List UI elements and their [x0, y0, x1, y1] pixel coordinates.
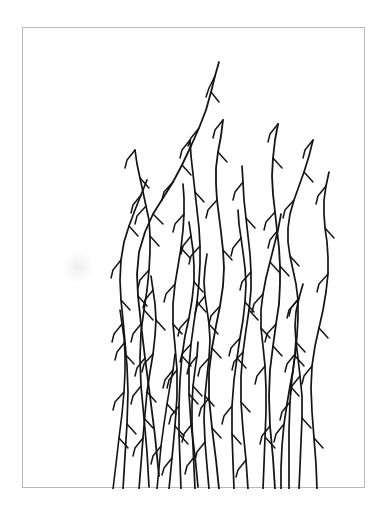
twig-bud	[131, 324, 141, 342]
twig-bud	[127, 424, 136, 434]
twig-bud	[112, 324, 122, 342]
twig-bud	[156, 320, 165, 330]
twig-bud	[135, 206, 146, 224]
twig-16	[302, 172, 334, 489]
illustration-frame	[22, 27, 365, 488]
twig-bud	[231, 238, 241, 256]
twig-3	[162, 184, 190, 489]
stem-layer	[111, 62, 334, 489]
twig-bud	[129, 226, 138, 236]
twig-15	[112, 310, 134, 489]
twig-bud	[283, 200, 294, 218]
twig-cluster-drawing	[23, 28, 366, 489]
twig-2	[125, 150, 159, 487]
figure-root	[0, 0, 389, 507]
twig-stem	[157, 354, 175, 489]
twig-bud	[264, 212, 275, 230]
twig-12	[252, 214, 281, 489]
twig-bud	[211, 92, 219, 102]
twig-bud	[131, 195, 141, 213]
twig-bud	[206, 200, 217, 218]
twig-bud	[153, 214, 163, 224]
twig-bud	[125, 150, 135, 168]
twig-bud	[167, 404, 176, 414]
twig-stem	[269, 124, 280, 489]
twig-stem	[179, 222, 194, 489]
twig-bud	[232, 434, 241, 444]
twig-bud	[115, 342, 125, 360]
twig-bud	[218, 152, 227, 162]
twig-bud	[222, 406, 232, 424]
twig-bud	[147, 392, 156, 402]
twig-bud	[302, 418, 311, 428]
twig-stem	[311, 172, 329, 489]
twig-bud	[273, 158, 282, 168]
twig-stem	[192, 342, 198, 489]
twig-bud	[150, 236, 159, 246]
twig-stem	[295, 284, 303, 489]
twig-bud	[236, 460, 246, 477]
twig-bud	[304, 172, 313, 182]
twig-bud	[180, 140, 190, 158]
twig-stem	[113, 310, 125, 489]
twig-bud	[270, 262, 279, 272]
twig-17	[289, 284, 311, 489]
twig-bud	[233, 182, 243, 200]
twig-6	[232, 166, 258, 489]
twig-stem	[169, 184, 184, 489]
twig-bud	[280, 266, 289, 276]
twig-bud	[273, 346, 282, 356]
twig-20	[274, 338, 299, 489]
twig-bud	[193, 386, 202, 396]
twig-bud	[182, 165, 191, 175]
twig-bud	[195, 442, 205, 460]
twig-bud	[144, 310, 153, 320]
twig-bud	[319, 328, 328, 338]
twig-bud	[212, 348, 221, 358]
twig-bud	[255, 366, 265, 384]
twig-bud	[131, 386, 141, 404]
